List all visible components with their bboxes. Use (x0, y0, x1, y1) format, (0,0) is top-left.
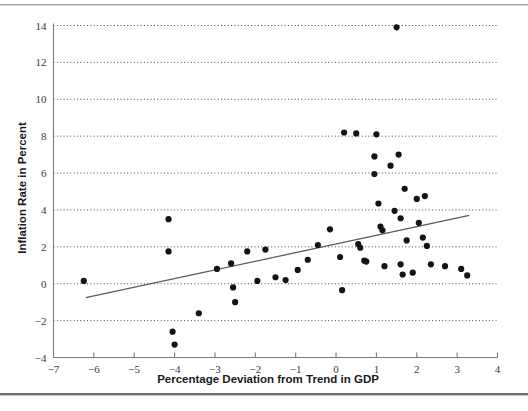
data-point-26 (363, 258, 369, 264)
data-point-43 (410, 270, 416, 276)
y-tick-label-6: 8 (41, 130, 47, 142)
data-point-49 (428, 261, 434, 267)
data-point-46 (420, 235, 426, 241)
data-point-8 (230, 284, 236, 290)
data-point-20 (339, 287, 345, 293)
y-axis-tick-labels: −4−202468101214 (35, 20, 47, 364)
data-point-51 (458, 266, 464, 272)
x-tick-label-2: −5 (128, 363, 140, 375)
data-point-1 (165, 216, 171, 222)
data-point-12 (262, 247, 268, 253)
y-tick-label-4: 4 (41, 204, 47, 216)
data-point-50 (442, 263, 448, 269)
x-axis-tickmarks (94, 353, 498, 358)
data-point-33 (381, 263, 387, 269)
data-point-19 (337, 254, 343, 260)
data-point-40 (400, 271, 406, 277)
y-axis-title: Inflation Rate in Percent (16, 122, 28, 254)
data-point-11 (254, 278, 260, 284)
x-tick-label-10: 3 (454, 363, 460, 375)
figure-container: −7−6−5−4−3−2−101234 −4−202468101214 Perc… (0, 0, 528, 411)
data-point-27 (371, 153, 377, 159)
y-tick-label-2: 0 (41, 278, 47, 290)
data-point-35 (391, 208, 397, 214)
data-point-17 (315, 242, 321, 248)
x-tick-label-1: −6 (88, 363, 100, 375)
x-tick-label-11: 4 (495, 363, 501, 375)
data-point-4 (171, 341, 177, 347)
data-point-6 (214, 266, 220, 272)
x-axis-title: Percentage Deviation from Trend in GDP (157, 373, 379, 385)
data-point-15 (295, 267, 301, 273)
data-point-16 (305, 257, 311, 263)
data-point-5 (196, 310, 202, 316)
data-point-3 (169, 329, 175, 335)
data-point-37 (396, 152, 402, 158)
data-point-32 (379, 227, 385, 233)
data-point-13 (272, 274, 278, 280)
data-point-21 (341, 129, 347, 135)
axes-group (54, 24, 498, 358)
data-point-38 (398, 215, 404, 221)
y-tick-label-5: 6 (41, 167, 47, 179)
x-tick-label-0: −7 (48, 363, 60, 375)
data-point-24 (357, 245, 363, 251)
data-point-0 (81, 278, 87, 284)
data-point-39 (398, 261, 404, 267)
y-tick-label-7: 10 (36, 93, 48, 105)
data-point-34 (387, 163, 393, 169)
data-point-41 (402, 186, 408, 192)
data-point-14 (282, 277, 288, 283)
x-tick-label-9: 2 (414, 363, 420, 375)
y-tick-label-8: 12 (36, 56, 47, 68)
data-point-29 (373, 131, 379, 137)
y-tick-label-9: 14 (36, 20, 48, 32)
data-point-30 (375, 200, 381, 206)
y-tick-label-0: −4 (35, 352, 47, 364)
y-tick-label-3: 2 (41, 241, 47, 253)
data-point-28 (371, 171, 377, 177)
data-point-36 (393, 24, 399, 30)
data-point-7 (228, 260, 234, 266)
data-point-47 (422, 193, 428, 199)
trend-line (86, 215, 469, 297)
data-point-22 (353, 130, 359, 136)
data-point-52 (464, 272, 470, 278)
data-point-42 (404, 237, 410, 243)
data-point-2 (165, 248, 171, 254)
data-point-10 (244, 248, 250, 254)
bottom-divider-rule (0, 393, 528, 396)
data-points-group (81, 24, 471, 347)
data-point-9 (232, 299, 238, 305)
data-point-48 (424, 243, 430, 249)
y-tick-label-1: −2 (35, 315, 47, 327)
data-point-45 (416, 220, 422, 226)
data-point-18 (327, 226, 333, 232)
data-point-44 (414, 196, 420, 202)
top-divider-rule (0, 4, 528, 6)
scatter-plot: −7−6−5−4−3−2−101234 −4−202468101214 Perc… (0, 8, 528, 393)
trendline-segment (86, 215, 469, 297)
